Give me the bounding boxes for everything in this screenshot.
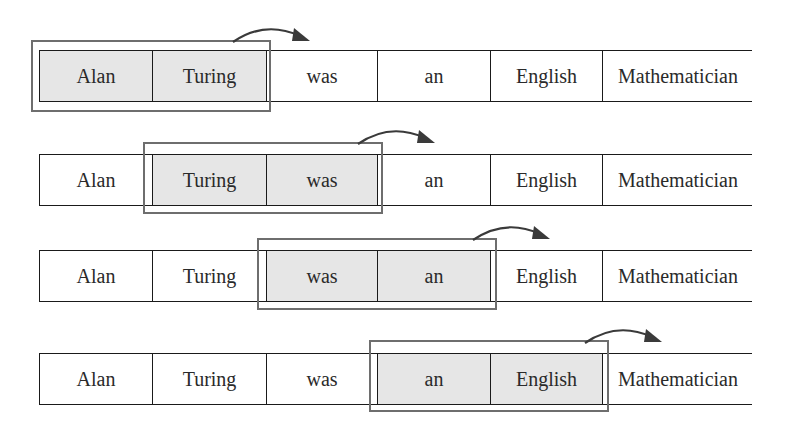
token-cell: an [378,251,491,301]
token-cell: English [491,251,603,301]
token-row-1: Alan Turing was an English Mathematician [39,50,752,102]
curved-arrow-icon [582,325,672,349]
token-row-2: Alan Turing was an English Mathematician [39,154,752,206]
token-cell: Turing [153,354,267,404]
token-cell: Alan [40,51,153,101]
token-cell: Mathematician [603,51,753,101]
token-cell: English [491,354,603,404]
token-cell: Alan [40,155,153,205]
token-cell: an [378,155,491,205]
token-row-4: Alan Turing was an English Mathematician [39,353,752,405]
token-cell: Turing [153,155,267,205]
token-cell: was [267,51,378,101]
token-row-3: Alan Turing was an English Mathematician [39,250,752,302]
token-cell: Alan [40,251,153,301]
token-cell: English [491,51,603,101]
token-cell: an [378,354,491,404]
token-cell: was [267,155,378,205]
curved-arrow-icon [355,126,445,150]
token-cell: Alan [40,354,153,404]
token-cell: was [267,251,378,301]
token-cell: Mathematician [603,251,753,301]
token-cell: Mathematician [603,155,753,205]
token-cell: Turing [153,251,267,301]
curved-arrow-icon [230,24,320,48]
token-cell: an [378,51,491,101]
curved-arrow-icon [470,222,560,246]
token-cell: was [267,354,378,404]
token-cell: English [491,155,603,205]
token-cell: Turing [153,51,267,101]
token-cell: Mathematician [603,354,753,404]
